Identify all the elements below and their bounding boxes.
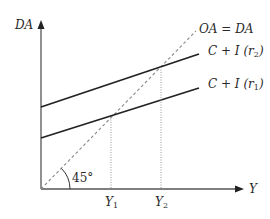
y1-tick-main: Y bbox=[105, 195, 113, 209]
y2-tick-label: Y2 bbox=[155, 196, 168, 210]
oa-da-label: OA = DA bbox=[199, 23, 253, 35]
y-axis-label: DA bbox=[15, 19, 33, 31]
c-i-r1-line bbox=[41, 88, 199, 138]
y2-tick-main: Y bbox=[155, 195, 163, 209]
y-axis-arrow-icon bbox=[38, 20, 45, 29]
c-i-r1-label-main: C + I (r bbox=[208, 77, 254, 91]
x-axis-arrow-icon bbox=[235, 186, 244, 193]
oa-da-line bbox=[41, 31, 196, 189]
angle-arc bbox=[62, 169, 71, 190]
y1-tick-label: Y1 bbox=[105, 196, 118, 210]
y1-tick-sub: 1 bbox=[113, 201, 118, 210]
c-i-r2-line bbox=[41, 54, 199, 107]
c-i-r1-label: C + I (r1) bbox=[208, 78, 264, 92]
angle-label: 45° bbox=[72, 172, 93, 184]
y2-tick-sub: 2 bbox=[163, 201, 168, 210]
c-i-r2-label-end: ) bbox=[259, 44, 264, 58]
c-i-r2-label: C + I (r2) bbox=[208, 45, 264, 59]
c-i-r1-label-end: ) bbox=[259, 77, 264, 91]
c-i-r2-label-main: C + I (r bbox=[208, 44, 254, 58]
x-axis-label: Y bbox=[249, 183, 257, 195]
